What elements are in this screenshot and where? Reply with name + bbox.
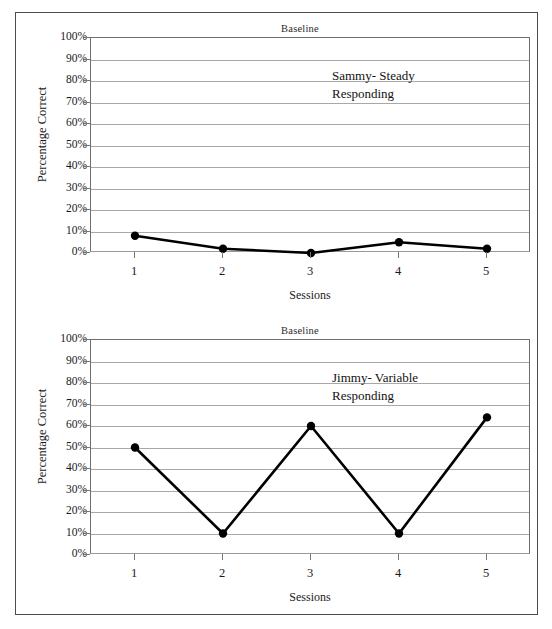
y-axis-tick-label: 70% [27, 398, 87, 409]
plot-area-sammy [90, 37, 530, 252]
annotation-sammy-line1: Sammy- Steady [332, 67, 415, 85]
y-axis-tick-label: 0% [27, 246, 87, 257]
chart-title-jimmy: Baseline [16, 325, 539, 336]
y-axis-tick-mark [84, 425, 90, 426]
y-axis-tick-mark [84, 490, 90, 491]
page-border-frame: Baseline Percentage Correct Sessions Sam… [15, 12, 538, 615]
x-axis-tick-mark [134, 252, 135, 258]
y-axis-tick-label: 90% [27, 355, 87, 366]
x-axis-tick-label: 2 [202, 566, 242, 581]
data-point-marker [219, 529, 227, 537]
y-axis-tick-mark [84, 37, 90, 38]
y-axis-tick-mark [84, 252, 90, 253]
y-axis-tick-mark [84, 231, 90, 232]
y-axis-tick-mark [84, 209, 90, 210]
chart-jimmy: Baseline Percentage Correct Sessions Jim… [16, 325, 539, 611]
y-axis-tick-mark [84, 361, 90, 362]
y-axis-tick-mark [84, 447, 90, 448]
y-axis-tick-label: 0% [27, 548, 87, 559]
y-axis-tick-mark [84, 382, 90, 383]
x-axis-tick-label: 1 [114, 264, 154, 279]
x-axis-title-jimmy: Sessions [90, 590, 530, 605]
y-axis-tick-label: 50% [27, 139, 87, 150]
y-axis-tick-label: 10% [27, 527, 87, 538]
data-point-marker [395, 238, 403, 246]
y-axis-tick-label: 60% [27, 117, 87, 128]
series-line [135, 417, 487, 533]
y-axis-tick-label: 50% [27, 441, 87, 452]
x-axis-tick-mark [486, 554, 487, 560]
y-axis-tick-label: 10% [27, 225, 87, 236]
y-axis-tick-label: 30% [27, 484, 87, 495]
x-axis-tick-label: 4 [378, 566, 418, 581]
data-series-jimmy [91, 340, 531, 555]
y-axis-tick-label: 60% [27, 419, 87, 430]
y-axis-tick-label: 80% [27, 74, 87, 85]
x-axis-tick-mark [486, 252, 487, 258]
x-axis-tick-mark [310, 554, 311, 560]
y-axis-tick-mark [84, 339, 90, 340]
y-axis-tick-mark [84, 533, 90, 534]
x-axis-tick-mark [134, 554, 135, 560]
data-point-marker [307, 422, 315, 430]
y-axis-tick-label: 20% [27, 203, 87, 214]
plot-area-jimmy [90, 339, 530, 554]
x-axis-tick-mark [398, 252, 399, 258]
x-axis-tick-label: 5 [466, 566, 506, 581]
y-axis-tick-mark [84, 59, 90, 60]
y-axis-tick-mark [84, 102, 90, 103]
y-axis-tick-mark [84, 511, 90, 512]
x-axis-tick-label: 1 [114, 566, 154, 581]
annotation-jimmy-line2: Responding [332, 387, 418, 405]
y-axis-tick-label: 70% [27, 96, 87, 107]
y-axis-tick-label: 30% [27, 182, 87, 193]
y-axis-tick-label: 100% [27, 31, 87, 42]
y-axis-tick-mark [84, 80, 90, 81]
x-axis-tick-label: 3 [290, 566, 330, 581]
y-axis-tick-mark [84, 123, 90, 124]
y-axis-tick-label: 80% [27, 376, 87, 387]
y-axis-tick-mark [84, 554, 90, 555]
x-axis-tick-label: 4 [378, 264, 418, 279]
y-axis-tick-label: 90% [27, 53, 87, 64]
x-axis-tick-label: 3 [290, 264, 330, 279]
chart-sammy: Baseline Percentage Correct Sessions Sam… [16, 23, 539, 315]
data-point-marker [395, 529, 403, 537]
data-point-marker [219, 245, 227, 253]
annotation-sammy-line2: Responding [332, 85, 415, 103]
data-point-marker [307, 249, 315, 257]
x-axis-title-sammy: Sessions [90, 288, 530, 303]
data-point-marker [131, 232, 139, 240]
y-axis-tick-mark [84, 404, 90, 405]
chart-title-sammy: Baseline [16, 23, 539, 34]
x-axis-tick-mark [398, 554, 399, 560]
data-point-marker [483, 245, 491, 253]
data-point-marker [483, 413, 491, 421]
y-axis-tick-label: 40% [27, 160, 87, 171]
data-series-sammy [91, 38, 531, 253]
y-axis-tick-mark [84, 188, 90, 189]
y-axis-tick-mark [84, 166, 90, 167]
x-axis-tick-label: 5 [466, 264, 506, 279]
page-canvas: Baseline Percentage Correct Sessions Sam… [0, 0, 552, 629]
annotation-sammy: Sammy- Steady Responding [332, 67, 415, 102]
annotation-jimmy-line1: Jimmy- Variable [332, 369, 418, 387]
x-axis-tick-mark [222, 252, 223, 258]
x-axis-tick-label: 2 [202, 264, 242, 279]
y-axis-tick-mark [84, 468, 90, 469]
data-point-marker [131, 443, 139, 451]
y-axis-tick-label: 20% [27, 505, 87, 516]
x-axis-tick-mark [310, 252, 311, 258]
y-axis-tick-mark [84, 145, 90, 146]
y-axis-tick-label: 100% [27, 333, 87, 344]
x-axis-tick-mark [222, 554, 223, 560]
annotation-jimmy: Jimmy- Variable Responding [332, 369, 418, 404]
y-axis-tick-label: 40% [27, 462, 87, 473]
